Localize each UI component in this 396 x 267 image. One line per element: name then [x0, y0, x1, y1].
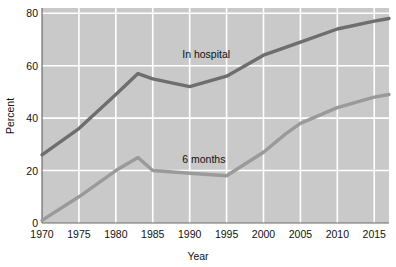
x-tick-label: 2015	[363, 228, 387, 240]
x-axis-title: Year	[187, 250, 209, 262]
y-tick-label: 0	[32, 217, 38, 229]
y-tick-label: 20	[26, 165, 38, 177]
x-tick-label: 2005	[289, 228, 313, 240]
chart-canvas: 1970197519801985199019952000200520102015…	[0, 0, 396, 267]
x-tick-label: 1970	[30, 228, 54, 240]
x-tick-label: 2000	[252, 228, 276, 240]
x-tick-label: 1985	[141, 228, 165, 240]
x-tick-label: 1990	[178, 228, 202, 240]
y-tick-label: 80	[26, 7, 38, 19]
series-label-1: 6 months	[182, 153, 225, 165]
line-chart-svg: 1970197519801985199019952000200520102015…	[0, 0, 396, 267]
x-tick-label: 1975	[67, 228, 91, 240]
series-label-0: In hospital	[182, 48, 230, 60]
y-tick-label: 40	[26, 112, 38, 124]
y-tick-label: 60	[26, 60, 38, 72]
x-tick-label: 1995	[215, 228, 239, 240]
x-tick-label: 1980	[104, 228, 128, 240]
y-axis-title: Percent	[4, 98, 16, 134]
chart-container: 1970197519801985199019952000200520102015…	[0, 0, 396, 267]
x-tick-label: 2010	[326, 228, 350, 240]
